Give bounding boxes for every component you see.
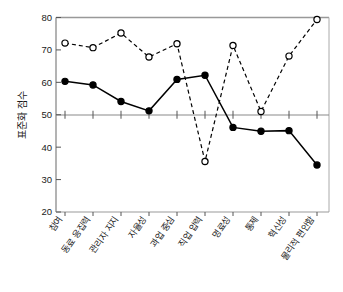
y-tick-label: 30 <box>41 174 52 185</box>
series-solid-filled-line <box>65 75 317 165</box>
y-tick-label: 20 <box>41 206 52 217</box>
series-solid-filled-point: 자율성: 51.2 <box>146 108 152 114</box>
series-dashed-open-point: 동료 응집력: 70.7 <box>90 45 96 51</box>
y-tick-label: 40 <box>41 142 52 153</box>
series-dashed-open-point: 참여: 72.1 <box>62 40 68 46</box>
y-axis-title: 표준화 점수 <box>17 91 28 139</box>
series-dashed-open-point: 과업 중심: 71.9 <box>174 41 180 47</box>
x-category-label: 직업 압력 <box>176 214 205 249</box>
y-axis-tick-labels: 20304050607080 <box>41 12 52 218</box>
series-solid-filled-point: 참여: 60.3 <box>62 78 68 84</box>
series-solid-filled-point: 명료성: 46.1 <box>230 124 236 130</box>
series-solid-filled-point: 물리적 편안함: 34.5 <box>314 162 320 168</box>
x-axis-category-labels: 참여동료 응집력관리자 지지자율성과업 중심직업 압력명료성통제혁신성물리적 편… <box>46 214 316 262</box>
series-dashed-open-point: 혁신성: 68.1 <box>286 53 292 59</box>
series-dashed-open-point: 직업 압력: 35.6 <box>202 158 208 164</box>
series-dashed-open-point: 명료성: 71.4 <box>230 42 236 48</box>
series-dashed-open-point: 관리자 지지: 75.2 <box>118 30 124 36</box>
series-dashed-open: 참여: 72.1동료 응집력: 70.7관리자 지지: 75.2자율성: 67.… <box>62 16 320 164</box>
x-category-label: 통제 <box>243 214 260 233</box>
series-dashed-open-point: 통제: 51 <box>258 108 264 114</box>
series-dashed-open-point: 자율성: 67.8 <box>146 54 152 60</box>
series-solid-filled-point: 동료 응집력: 59.2 <box>90 82 96 88</box>
y-tick-label: 70 <box>41 44 52 55</box>
y-tick-label: 60 <box>41 77 52 88</box>
standardized-score-line-chart: 20304050607080 표준화 점수 참여: 72.1동료 응집력: 70… <box>0 0 343 292</box>
chart-container: 20304050607080 표준화 점수 참여: 72.1동료 응집력: 70… <box>0 0 343 292</box>
x-category-label: 과업 중심 <box>148 214 176 248</box>
x-category-label: 혁신성 <box>267 214 289 239</box>
series-solid-filled-point: 혁신성: 45.1 <box>286 128 292 134</box>
y-tick-label: 80 <box>41 12 52 23</box>
series-dashed-open-point: 물리적 편안함: 79.4 <box>314 16 320 22</box>
series-solid-filled-point: 통제: 44.9 <box>258 128 264 134</box>
series-solid-filled-point: 관리자 지지: 54.1 <box>118 98 124 104</box>
x-category-label: 명료성 <box>211 214 233 239</box>
series-solid-filled-point: 과업 중심: 60.9 <box>174 76 180 82</box>
series-solid-filled: 참여: 60.3동료 응집력: 59.2관리자 지지: 54.1자율성: 51.… <box>62 72 320 168</box>
y-tick-label: 50 <box>41 109 52 120</box>
series-solid-filled-point: 직업 압력: 62.2 <box>202 72 208 78</box>
x-category-label: 자율성 <box>127 214 149 239</box>
y-axis-ticks <box>56 18 61 213</box>
y-axis-title-text: 표준화 점수 <box>17 91 28 139</box>
x-category-label: 관리자 지지 <box>88 214 121 255</box>
